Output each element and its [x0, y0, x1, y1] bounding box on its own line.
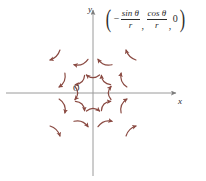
formula-minus-sign: − — [114, 14, 120, 24]
field-vector-arrow — [101, 101, 110, 110]
y-axis-label: y — [88, 4, 92, 14]
field-vector-arrow — [98, 121, 112, 127]
formula-term-2: cos θ r — [147, 9, 168, 30]
field-vector-arrow — [101, 75, 110, 84]
field-vector-arrow — [121, 73, 127, 87]
field-vector-arrow — [126, 126, 136, 136]
field-vector-arrow — [50, 126, 60, 136]
formula-term-3: 0 — [173, 14, 178, 24]
vector-field-figure: ( − sin θ r , cos θ r , 0 ) x y O — [0, 0, 206, 181]
x-axis-label: x — [178, 96, 182, 106]
axes-group — [6, 10, 176, 176]
origin-label: O — [73, 83, 80, 93]
vector-field-formula: ( − sin θ r , cos θ r , 0 ) — [104, 6, 186, 32]
formula-term-1-denominator: r — [129, 21, 133, 30]
field-vector-arrow — [75, 101, 84, 110]
field-vector-arrow — [126, 50, 136, 60]
formula-term-1-numerator: sin θ — [121, 9, 140, 18]
field-vector-arrow — [98, 59, 112, 65]
field-vector-arrow — [121, 99, 127, 113]
field-vector-arrow — [50, 50, 60, 60]
field-vector-arrow — [59, 99, 65, 113]
formula-separator-2: , — [169, 21, 172, 32]
formula-term-2-denominator: r — [155, 21, 159, 30]
field-vector-arrow — [59, 73, 65, 87]
field-vector-arrow — [74, 59, 88, 65]
formula-open-paren: ( — [106, 6, 111, 32]
field-vector-arrow — [74, 121, 88, 127]
formula-term-1: sin θ r — [121, 9, 140, 30]
formula-close-paren: ) — [179, 6, 184, 32]
formula-term-2-numerator: cos θ — [147, 9, 168, 18]
formula-separator-1: , — [142, 21, 145, 32]
